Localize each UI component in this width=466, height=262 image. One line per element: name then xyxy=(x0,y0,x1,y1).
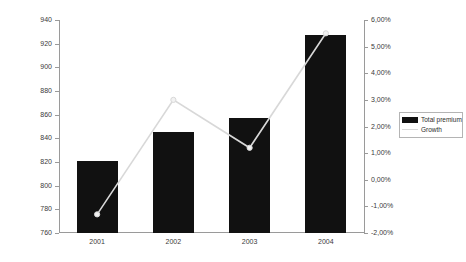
right-axis-tick xyxy=(364,47,368,48)
category-label: 2001 xyxy=(67,238,127,246)
left-axis-tick xyxy=(55,20,59,21)
legend-item-label: Growth xyxy=(421,126,442,134)
right-axis-tick xyxy=(364,206,368,207)
right-axis-tick-label: 2,00% xyxy=(371,123,391,131)
right-axis-tick-label: 6,00% xyxy=(371,16,391,24)
left-axis-tick-label: 780 xyxy=(40,205,52,213)
bar[interactable] xyxy=(229,118,270,233)
right-axis-tick-label: 4,00% xyxy=(371,69,391,77)
chart-container: 760780800820840860880900920940 -2,00%-1,… xyxy=(0,0,466,262)
left-axis-tick xyxy=(55,115,59,116)
left-axis-tick xyxy=(55,233,59,234)
chart-legend: Total premium Growth xyxy=(399,112,463,138)
left-axis-tick xyxy=(55,67,59,68)
bar[interactable] xyxy=(153,132,194,233)
left-axis-tick xyxy=(55,186,59,187)
left-axis-tick-label: 820 xyxy=(40,158,52,166)
legend-item-growth[interactable]: Growth xyxy=(402,125,460,134)
left-axis-tick-label: 800 xyxy=(40,182,52,190)
left-axis-tick-label: 880 xyxy=(40,87,52,95)
right-axis-tick-label: -1,00% xyxy=(371,202,393,210)
right-axis-tick xyxy=(364,127,368,128)
category-label: 2002 xyxy=(143,238,203,246)
right-axis-tick-label: 0,00% xyxy=(371,176,391,184)
left-axis-tick xyxy=(55,162,59,163)
legend-item-total-premium[interactable]: Total premium xyxy=(402,115,460,124)
left-axis-tick xyxy=(55,44,59,45)
left-axis-tick xyxy=(55,209,59,210)
right-axis-tick xyxy=(364,100,368,101)
left-axis-tick-label: 900 xyxy=(40,63,52,71)
left-axis-tick xyxy=(55,138,59,139)
left-axis-tick-label: 920 xyxy=(40,40,52,48)
category-label: 2004 xyxy=(296,238,356,246)
bar[interactable] xyxy=(77,161,118,233)
left-axis-tick-label: 840 xyxy=(40,134,52,142)
left-axis-tick-label: 760 xyxy=(40,229,52,237)
right-axis-tick-label: -2,00% xyxy=(371,229,393,237)
right-axis-tick xyxy=(364,73,368,74)
legend-line-swatch-icon xyxy=(402,127,418,133)
category-label: 2003 xyxy=(220,238,280,246)
right-axis-tick xyxy=(364,180,368,181)
legend-item-label: Total premium xyxy=(421,116,462,124)
left-axis-tick xyxy=(55,91,59,92)
left-axis-tick-label: 860 xyxy=(40,111,52,119)
right-axis-tick-label: 3,00% xyxy=(371,96,391,104)
right-axis-tick-label: 5,00% xyxy=(371,43,391,51)
legend-bar-swatch-icon xyxy=(402,117,418,123)
right-axis-tick xyxy=(364,20,368,21)
left-axis-tick-label: 940 xyxy=(40,16,52,24)
bar[interactable] xyxy=(305,35,346,233)
right-axis-tick xyxy=(364,233,368,234)
right-axis-tick xyxy=(364,153,368,154)
right-axis-tick-label: 1,00% xyxy=(371,149,391,157)
